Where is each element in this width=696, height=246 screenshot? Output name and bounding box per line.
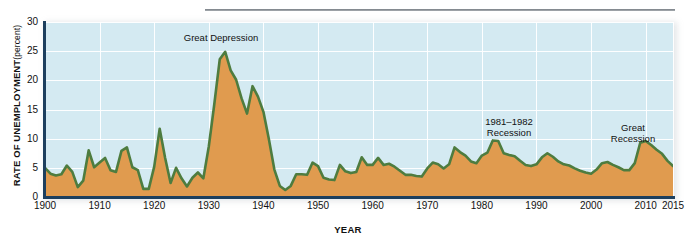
annotation-recession-1981-1982: 1981–1982 Recession [462, 116, 556, 138]
x-tick-label-1960: 1960 [362, 200, 384, 211]
x-axis-line [43, 196, 675, 199]
gridline-x-2015 [673, 22, 674, 197]
x-axis-tick-labels: 1900191019201930194019501960197019801990… [0, 200, 696, 216]
x-tick-label-1910: 1910 [88, 200, 110, 211]
x-tick-label-2015: 2015 [662, 200, 684, 211]
plot-area [45, 22, 673, 197]
x-tick-label-1900: 1900 [34, 200, 56, 211]
annotation-great-depression: Great Depression [156, 32, 286, 43]
x-tick-label-1920: 1920 [143, 200, 165, 211]
x-tick-label-2010: 2010 [635, 200, 657, 211]
y-axis-title-unit: (percent) [12, 25, 22, 60]
top-divider-rule [205, 9, 675, 11]
x-tick-label-1990: 1990 [525, 200, 547, 211]
annotation-great-recession: Great Recession [596, 122, 670, 144]
x-axis-title: YEAR [0, 224, 696, 235]
y-axis-title-text: RATE OF UNEMPLOYMENT [11, 60, 22, 186]
x-tick-label-1980: 1980 [471, 200, 493, 211]
x-tick-label-1940: 1940 [252, 200, 274, 211]
x-tick-label-2000: 2000 [580, 200, 602, 211]
unemployment-rate-chart-figure: 051015202530 190019101920193019401950196… [0, 0, 696, 246]
x-tick-label-1950: 1950 [307, 200, 329, 211]
x-tick-label-1930: 1930 [198, 200, 220, 211]
y-axis-title: RATE OF UNEMPLOYMENT(percent) [11, 6, 22, 206]
x-tick-label-1970: 1970 [416, 200, 438, 211]
y-axis-line [43, 21, 46, 199]
unemployment-series-plot [45, 22, 673, 197]
